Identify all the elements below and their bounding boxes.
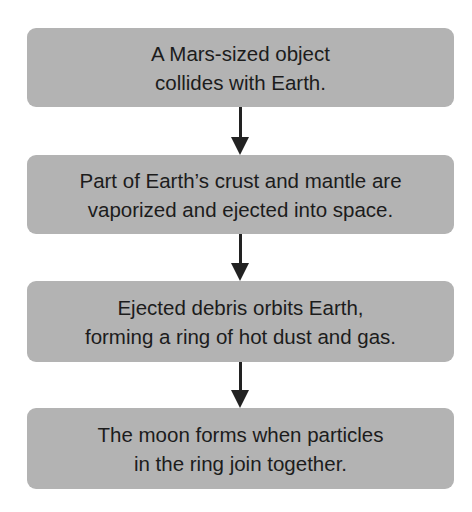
step-1-box: A Mars-sized object collides with Earth. <box>27 28 454 107</box>
step-4-line-1: The moon forms when particles <box>98 420 384 449</box>
step-4-line-2: in the ring join together. <box>98 449 384 478</box>
step-3-line-2: forming a ring of hot dust and gas. <box>85 322 396 351</box>
arrow-down-icon <box>235 362 245 408</box>
arrow-down-icon <box>235 234 245 281</box>
step-4-box: The moon forms when particles in the rin… <box>27 408 454 489</box>
step-2-box: Part of Earth’s crust and mantle are vap… <box>27 155 454 234</box>
step-2-line-2: vaporized and ejected into space. <box>79 195 401 224</box>
step-3-box: Ejected debris orbits Earth, forming a r… <box>27 281 454 362</box>
arrow-down-icon <box>235 107 245 155</box>
step-1-line-2: collides with Earth. <box>151 68 330 97</box>
step-2-line-1: Part of Earth’s crust and mantle are <box>79 166 401 195</box>
step-1-line-1: A Mars-sized object <box>151 39 330 68</box>
step-3-line-1: Ejected debris orbits Earth, <box>85 293 396 322</box>
